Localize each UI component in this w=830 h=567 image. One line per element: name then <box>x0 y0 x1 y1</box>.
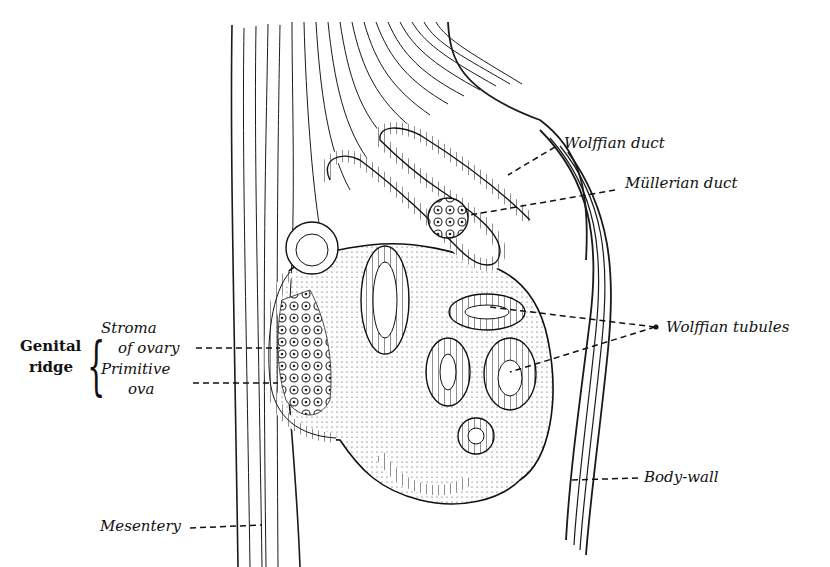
label-genital: Genital <box>20 339 81 354</box>
label-body-wall: Body-wall <box>644 470 719 485</box>
label-of-ovary: of ovary <box>118 341 179 356</box>
label-stroma: Stroma <box>101 321 157 336</box>
label-mullerian-duct: Müllerian duct <box>625 176 738 191</box>
label-primitive: Primitive <box>101 362 170 377</box>
label-ridge: ridge <box>29 360 73 375</box>
body-wall-tissue <box>540 130 611 555</box>
label-ova: ova <box>128 382 154 397</box>
mullerian-duct <box>428 198 468 238</box>
label-wolffian-duct: Wolffian duct <box>564 136 665 151</box>
wolffian-tubules-pointer-dot <box>654 325 659 330</box>
label-mesentery: Mesentery <box>100 519 181 534</box>
wolffian-duct-coils <box>327 128 530 265</box>
label-wolffian-tubules: Wolffian tubules <box>666 320 789 335</box>
upper-vesicle <box>286 222 338 274</box>
